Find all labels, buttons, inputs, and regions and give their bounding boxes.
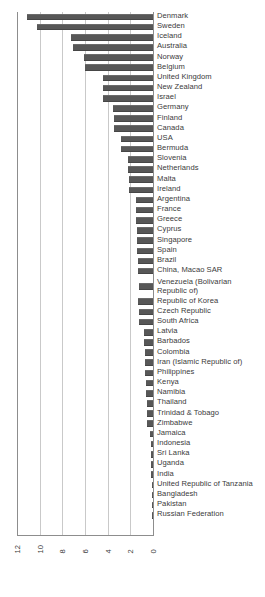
bar	[152, 512, 153, 519]
bar-category-label: Barbados	[157, 336, 265, 345]
bar-category-label: Iran (Islamic Republic of)	[157, 357, 265, 366]
bar-category-label: Israel	[157, 92, 265, 101]
bar-category-label: Republic of Korea	[157, 296, 265, 305]
bar-category-label: Sweden	[157, 21, 265, 30]
bar	[121, 146, 153, 153]
bar-category-label: South Africa	[157, 316, 265, 325]
bar-category-label: Ireland	[157, 184, 265, 193]
bar-category-label: Latvia	[157, 326, 265, 335]
bar-category-label: Malta	[157, 174, 265, 183]
bar	[136, 207, 153, 214]
x-tick-label-0: 0	[149, 532, 158, 554]
bar-category-label: United Kingdom	[157, 72, 265, 81]
bar	[37, 24, 153, 31]
bar	[114, 115, 153, 122]
bar-category-label: Sri Lanka	[157, 448, 265, 457]
bar-category-label: Canada	[157, 123, 265, 132]
bar	[129, 187, 153, 194]
bar	[144, 329, 153, 336]
bar-category-label: India	[157, 469, 265, 478]
bar	[145, 359, 153, 366]
bar-category-label: France	[157, 204, 265, 213]
bar-category-label: Cyprus	[157, 224, 265, 233]
bar-category-label: Netherlands	[157, 163, 265, 172]
bar	[137, 227, 153, 234]
bar-category-label: Philippines	[157, 367, 265, 376]
bar	[137, 248, 153, 255]
bar-category-label: Belgium	[157, 62, 265, 71]
bar	[152, 492, 153, 499]
bar-category-label: Colombia	[157, 347, 265, 356]
bar-category-label: Namibia	[157, 387, 265, 396]
bar	[103, 85, 153, 92]
x-axis-tick-labels: 121086420	[0, 538, 265, 568]
bar	[139, 319, 153, 326]
bar	[151, 461, 153, 468]
bar	[139, 309, 153, 316]
bar	[150, 431, 153, 438]
bar-category-label: Norway	[157, 52, 265, 61]
bar-category-label: Jamaica	[157, 428, 265, 437]
bar-category-label: Trinidad & Tobago	[157, 408, 265, 417]
x-tick-label-8: 8	[58, 532, 67, 554]
bar-category-label: Australia	[157, 41, 265, 50]
bar	[103, 95, 153, 102]
bar	[139, 283, 153, 290]
bar-category-label: Pakistan	[157, 499, 265, 508]
bar	[136, 217, 153, 224]
bar	[151, 451, 153, 458]
bar-category-label: Czech Republic	[157, 306, 265, 315]
bar	[151, 441, 153, 448]
bar-category-label: Bermuda	[157, 143, 265, 152]
bar	[103, 75, 153, 82]
x-tick-label-4: 4	[103, 532, 112, 554]
bar	[147, 410, 153, 417]
bar	[144, 339, 153, 346]
bar-category-label: Slovenia	[157, 153, 265, 162]
bar-category-label: Russian Federation	[157, 509, 265, 518]
bar-rows: DenmarkSwedenIcelandAustraliaNorwayBelgi…	[0, 12, 265, 536]
bar-category-label: Zimbabwe	[157, 418, 265, 427]
bar	[27, 14, 153, 21]
bar-category-label: Thailand	[157, 397, 265, 406]
bar	[147, 420, 153, 427]
bar	[145, 370, 153, 377]
x-tick-label-10: 10	[35, 532, 44, 554]
bar-category-label: Iceland	[157, 31, 265, 40]
bar	[84, 54, 153, 61]
x-tick-label-2: 2	[126, 532, 135, 554]
bar-category-label: Finland	[157, 113, 265, 122]
bar-category-label: China, Macao SAR	[157, 265, 265, 274]
bar-category-label: USA	[157, 133, 265, 142]
bar	[113, 105, 153, 112]
bar-row: Russian Federation	[0, 510, 265, 520]
bar-category-label: United Republic of Tanzania	[157, 479, 265, 488]
bar-category-label: Indonesia	[157, 438, 265, 447]
bar-category-label: New Zealand	[157, 82, 265, 91]
bar	[146, 390, 153, 397]
bar	[152, 502, 153, 509]
bar-category-label: Argentina	[157, 194, 265, 203]
x-tick-label-12: 12	[13, 532, 22, 554]
bar	[138, 298, 153, 305]
bar	[138, 268, 153, 275]
bar	[136, 197, 153, 204]
bar	[151, 471, 153, 478]
bar	[152, 482, 153, 489]
bar-category-label: Singapore	[157, 235, 265, 244]
bar-category-label: Venezuela (Bolivarian Republic of)	[157, 277, 265, 295]
bar	[137, 237, 153, 244]
bar-row: Venezuela (Bolivarian Republic of)	[0, 276, 265, 296]
bar-category-label: Bangladesh	[157, 489, 265, 498]
bar	[147, 400, 153, 407]
bar-chart: DenmarkSwedenIcelandAustraliaNorwayBelgi…	[0, 0, 265, 597]
bar-category-label: Greece	[157, 214, 265, 223]
bar-category-label: Spain	[157, 245, 265, 254]
bar	[138, 258, 153, 265]
bar	[85, 64, 153, 71]
bar	[71, 34, 153, 41]
bar-category-label: Denmark	[157, 11, 265, 20]
bar	[128, 166, 153, 173]
bar	[128, 156, 153, 163]
x-tick-label-6: 6	[81, 532, 90, 554]
